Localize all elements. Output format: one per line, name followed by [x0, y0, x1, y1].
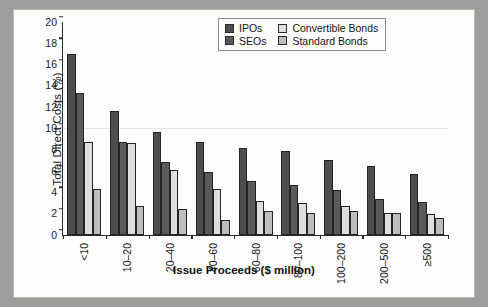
bar-group: [405, 22, 448, 235]
bar: [427, 214, 436, 235]
legend-swatch-seos: [225, 36, 234, 45]
bar: [375, 199, 384, 235]
bar: [119, 142, 128, 235]
legend-label-standard-bonds: Standard Bonds: [292, 36, 367, 47]
chart-figure: 02468101214161820 Total Direct Costs (%)…: [14, 10, 474, 297]
x-axis-tick-mark: [277, 235, 278, 239]
bar: [170, 170, 179, 235]
legend-item-ipos: IPOs: [225, 23, 266, 34]
y-axis-tick-label: 4: [17, 187, 63, 198]
bar: [384, 213, 393, 235]
bar: [256, 201, 265, 235]
bar: [367, 166, 376, 235]
legend-swatch-standard-bonds: [278, 36, 287, 45]
y-axis-tick-label: 2: [17, 208, 63, 219]
bar: [290, 185, 299, 235]
x-axis-tick-mark: [63, 235, 64, 239]
legend-item-standard-bonds: Standard Bonds: [278, 36, 378, 47]
bar: [350, 211, 359, 235]
bar: [221, 220, 230, 235]
bar: [264, 211, 273, 235]
bar: [247, 181, 256, 235]
bar: [110, 111, 119, 235]
bar: [178, 209, 187, 235]
bar: [333, 190, 342, 235]
x-axis-tick-mark: [320, 235, 321, 239]
bar: [410, 174, 419, 235]
bar: [418, 202, 427, 235]
chart-legend: IPOs Convertible Bonds SEOs Standard Bon…: [218, 18, 386, 51]
bar-group: [106, 22, 149, 235]
bar: [161, 162, 170, 235]
y-axis-tick-label: 20: [17, 17, 63, 28]
bar: [324, 160, 333, 235]
bar: [76, 93, 85, 235]
x-axis-tick-mark: [405, 235, 406, 239]
bar-group: [277, 22, 320, 235]
legend-swatch-ipos: [225, 24, 234, 33]
x-axis-tick-mark: [448, 235, 449, 239]
x-axis-tick-label: <10: [78, 243, 90, 261]
bar: [239, 148, 248, 235]
bar: [136, 206, 145, 235]
legend-item-seos: SEOs: [225, 36, 266, 47]
x-axis-tick-mark: [149, 235, 150, 239]
bar-group: [149, 22, 192, 235]
bar: [67, 54, 76, 235]
bar-group: [63, 22, 106, 235]
bar: [281, 151, 290, 235]
legend-label-ipos: IPOs: [239, 23, 262, 34]
bar: [127, 143, 136, 235]
bar-group: [191, 22, 234, 235]
bar-group: [320, 22, 363, 235]
bar: [307, 213, 316, 235]
bar: [213, 189, 222, 235]
y-axis-tick-mark: [59, 16, 63, 17]
bar: [196, 142, 205, 235]
x-axis-tick-label: ≥500: [421, 243, 433, 266]
y-axis-tick-label: 16: [17, 59, 63, 70]
bar-group: [362, 22, 405, 235]
bar: [392, 213, 401, 235]
bar-groups: [63, 22, 448, 235]
legend-item-convertible-bonds: Convertible Bonds: [278, 23, 378, 34]
y-axis-tick-label: 18: [17, 38, 63, 49]
legend-swatch-convertible-bonds: [278, 24, 287, 33]
legend-label-convertible-bonds: Convertible Bonds: [292, 23, 378, 34]
bar: [341, 206, 350, 235]
plot-area: 02468101214161820 Total Direct Costs (%)…: [62, 22, 448, 236]
x-axis-tick-mark: [362, 235, 363, 239]
x-axis-tick-mark: [234, 235, 235, 239]
legend-label-seos: SEOs: [239, 36, 266, 47]
bar-group: [234, 22, 277, 235]
y-axis-tick-label: 0: [17, 230, 63, 241]
bar: [435, 218, 444, 235]
bar: [93, 189, 102, 235]
bar: [84, 142, 93, 235]
x-axis-title: Issue Proceeds ($ million): [14, 264, 474, 276]
bar: [204, 172, 213, 235]
x-axis-tick-mark: [191, 235, 192, 239]
bar: [153, 132, 162, 235]
y-axis-title: Total Direct Costs (%): [51, 72, 63, 185]
x-axis-tick-mark: [106, 235, 107, 239]
bar: [298, 203, 307, 235]
